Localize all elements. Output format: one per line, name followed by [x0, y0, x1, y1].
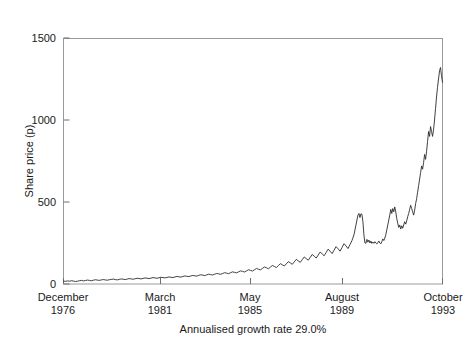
plot-area [0, 0, 470, 349]
share-price-chart-figure: Share price (p) 0 500 1000 1500 December… [0, 0, 470, 349]
share-price-line [64, 68, 443, 282]
plot-frame [64, 39, 443, 285]
y-axis-ticks [64, 38, 70, 284]
